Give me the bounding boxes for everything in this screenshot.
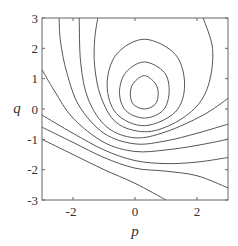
contour-line: [107, 39, 185, 125]
y-tick-label: -3: [27, 193, 38, 208]
y-tick-label: 3: [32, 11, 39, 26]
x-axis-tick-labels: -2 0 2: [66, 204, 201, 219]
contour-line: [130, 76, 158, 109]
plot-frame: [42, 18, 228, 200]
contour-lines: [42, 18, 228, 200]
contour-line: [42, 127, 228, 188]
contour-line: [120, 62, 170, 118]
contour-plot: 3 2 1 0 -1 -2 -3 -2 0 2 q p: [0, 0, 238, 246]
y-tick-label: 2: [32, 41, 39, 56]
y-axis-label: q: [13, 100, 21, 116]
y-tick-label: -2: [27, 162, 38, 177]
x-tick-label: 2: [194, 204, 201, 219]
x-axis-label: p: [130, 223, 139, 239]
x-tick-label: 0: [132, 204, 139, 219]
x-tick-label: -2: [66, 204, 77, 219]
axis-ticks: [42, 18, 228, 200]
contour-line: [94, 18, 213, 132]
contour-line: [42, 115, 228, 164]
y-axis-tick-labels: 3 2 1 0 -1 -2 -3: [27, 11, 38, 208]
y-tick-label: 1: [32, 71, 39, 86]
contour-line: [79, 18, 228, 138]
y-tick-label: 0: [32, 102, 39, 117]
y-tick-label: -1: [27, 132, 38, 147]
